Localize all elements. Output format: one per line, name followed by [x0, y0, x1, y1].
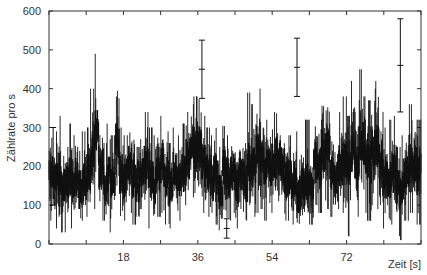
y-axis-title: Zählrate pro s [5, 94, 17, 162]
x-tick-label: 36 [192, 251, 204, 263]
y-tick-label: 400 [23, 83, 41, 95]
y-tick-label: 100 [23, 199, 41, 211]
y-tick-label: 600 [23, 5, 41, 17]
x-tick-label: 72 [340, 251, 352, 263]
y-tick-label: 300 [23, 122, 41, 134]
y-tick-label: 500 [23, 44, 41, 56]
data-series [49, 54, 420, 240]
x-axis-title: Zeit [s] [388, 258, 421, 270]
y-tick-label: 200 [23, 160, 41, 172]
count-rate-chart: 0100200300400500600 18365472 Zählrate pr… [0, 0, 427, 275]
x-tick-label: 54 [266, 251, 278, 263]
y-tick-label: 0 [35, 238, 41, 250]
x-tick-label: 18 [117, 251, 129, 263]
